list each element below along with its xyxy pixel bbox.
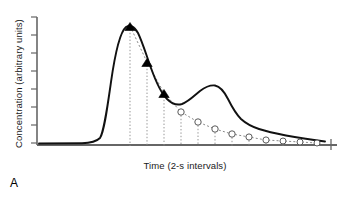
circle-markers [178,109,320,146]
concentration-curve [39,26,325,144]
figure-panel: Concentration (arbitrary units) Time (2-… [0,0,361,203]
chart-plot-area [0,0,361,203]
y-axis-ticks [31,17,37,143]
